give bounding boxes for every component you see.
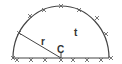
- radius-line: [19, 33, 61, 58]
- center-label: C: [57, 44, 64, 55]
- radius-label: r: [41, 36, 45, 47]
- semicircle-diagram: r C t: [0, 0, 122, 64]
- region-label: t: [74, 27, 78, 38]
